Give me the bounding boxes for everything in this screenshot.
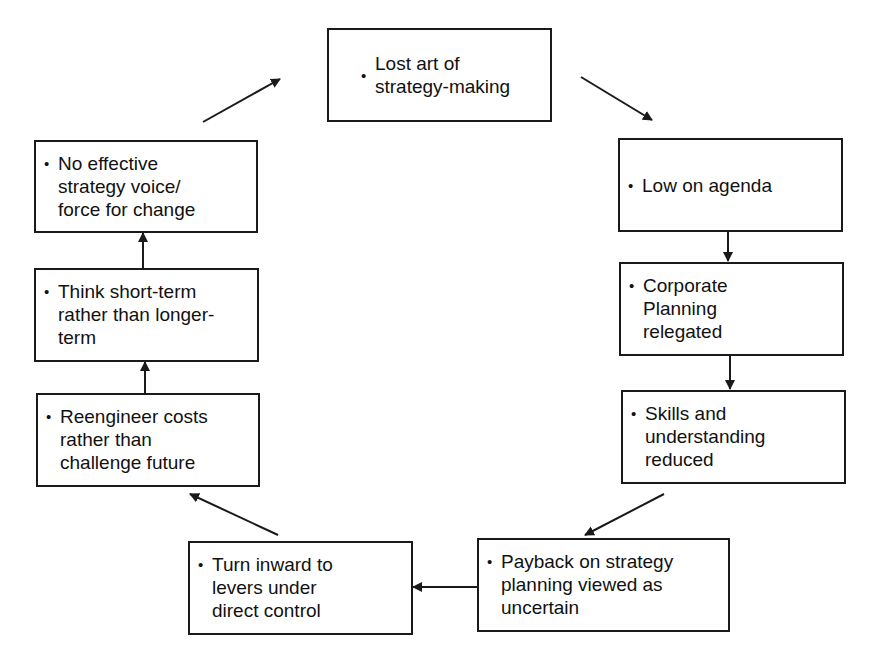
node-label: No effective strategy voice/ force for c…: [58, 152, 195, 221]
node-skills-reduced: • Skills and understanding reduced: [621, 390, 846, 484]
node-reengineer-costs: • Reengineer costs rather than challenge…: [36, 393, 260, 487]
node-lost-art: • Lost art of strategy-making: [327, 28, 552, 122]
cropped-title-remnant: [150, 0, 750, 4]
bullet-icon: •: [631, 402, 645, 425]
node-label: Lost art of strategy-making: [375, 52, 510, 98]
bullet-icon: •: [628, 174, 642, 197]
node-label: Think short-term rather than longer- ter…: [58, 280, 214, 349]
bullet-icon: •: [487, 550, 501, 573]
node-no-voice: • No effective strategy voice/ force for…: [34, 140, 258, 233]
node-low-agenda: • Low on agenda: [618, 138, 843, 232]
bullet-icon: •: [46, 405, 60, 428]
node-label: Corporate Planning relegated: [643, 274, 728, 343]
node-payback-uncertain: • Payback on strategy planning viewed as…: [477, 538, 730, 632]
arrow-no-voice-to-lost-art: [203, 79, 280, 122]
node-label: Payback on strategy planning viewed as u…: [501, 550, 673, 619]
bullet-icon: •: [44, 280, 58, 303]
node-label: Skills and understanding reduced: [645, 402, 765, 471]
node-turn-inward: • Turn inward to levers under direct con…: [188, 541, 413, 635]
bullet-icon: •: [361, 64, 375, 87]
arrow-turn-inward-to-reengineer: [190, 494, 278, 535]
node-label: Turn inward to levers under direct contr…: [212, 553, 333, 622]
bullet-icon: •: [198, 553, 212, 576]
arrow-lost-art-to-low-agenda: [581, 77, 652, 120]
arrow-skills-to-payback: [585, 494, 664, 535]
bullet-icon: •: [44, 152, 58, 175]
bullet-icon: •: [629, 274, 643, 297]
strategy-cycle-diagram: • Lost art of strategy-making • Low on a…: [0, 0, 873, 656]
node-label: Low on agenda: [642, 174, 772, 197]
node-label: Reengineer costs rather than challenge f…: [60, 405, 208, 474]
node-corporate-planning: • Corporate Planning relegated: [619, 262, 844, 356]
node-short-term: • Think short-term rather than longer- t…: [34, 268, 259, 362]
